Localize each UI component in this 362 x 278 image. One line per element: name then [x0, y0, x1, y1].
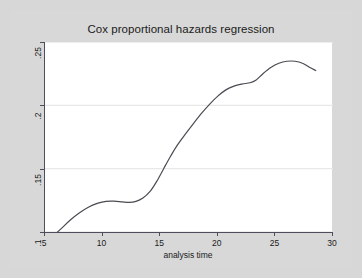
x-tick-label: 5: [42, 238, 47, 248]
x-tick-label: 25: [270, 238, 279, 248]
chart-title: Cox proportional hazards regression: [10, 23, 352, 35]
x-tick-mark: [102, 232, 103, 236]
x-tick-label: 15: [154, 238, 163, 248]
y-axis-title: Smoothed hazard function: [0, 0, 6, 24]
x-tick-mark: [159, 232, 160, 236]
y-tick-label: .25: [33, 41, 43, 65]
x-tick-label: 30: [327, 238, 336, 248]
x-axis-title: analysis time: [44, 250, 332, 260]
data-series-group: [54, 61, 316, 232]
plot-area: [44, 42, 332, 232]
x-tick-mark: [332, 232, 333, 236]
x-tick-mark: [44, 232, 45, 236]
y-tick-label: .2: [33, 104, 43, 128]
hazard-curve: [54, 61, 316, 232]
graph-region: Cox proportional hazards regression Smoo…: [10, 10, 352, 268]
y-tick-label: .15: [33, 168, 43, 192]
x-tick-mark: [274, 232, 275, 236]
x-tick-label: 20: [212, 238, 221, 248]
chart-figure: Cox proportional hazards regression Smoo…: [0, 0, 362, 278]
x-tick-label: 10: [97, 238, 106, 248]
plot-svg: [45, 42, 333, 232]
gridlines: [45, 42, 333, 232]
x-axis-line: [44, 232, 332, 233]
x-tick-mark: [217, 232, 218, 236]
